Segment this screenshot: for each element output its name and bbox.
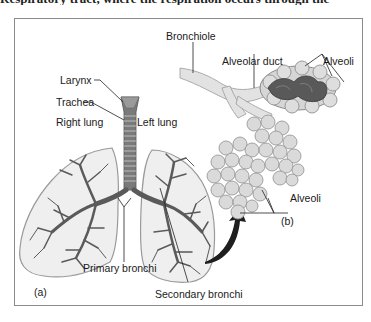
bronchiole-shape bbox=[180, 68, 272, 122]
panel-a-tag: (a) bbox=[34, 287, 47, 298]
label-larynx: Larynx bbox=[60, 75, 92, 86]
trachea-shape bbox=[121, 97, 139, 190]
label-secondary-bronchi: Secondary bronchi bbox=[155, 289, 243, 300]
label-trachea: Trachea bbox=[56, 97, 94, 108]
alveolar-sac-upper bbox=[260, 61, 340, 113]
panel-b-tag: (b) bbox=[281, 216, 294, 227]
label-left-lung: Left lung bbox=[137, 117, 177, 128]
larynx-pointer bbox=[94, 80, 123, 102]
label-primary-bronchi: Primary bronchi bbox=[83, 263, 157, 274]
label-alveolar-duct: Alveolar duct bbox=[222, 56, 283, 67]
label-alveoli-top: Alveoli bbox=[323, 56, 354, 67]
label-bronchiole: Bronchiole bbox=[166, 31, 216, 42]
label-alveoli-bottom: Alveoli bbox=[290, 193, 321, 204]
primary-bronchi-pointer bbox=[118, 198, 131, 262]
label-right-lung: Right lung bbox=[56, 117, 103, 128]
respiratory-diagram bbox=[0, 0, 371, 322]
